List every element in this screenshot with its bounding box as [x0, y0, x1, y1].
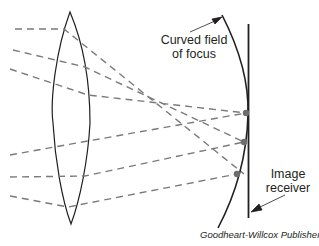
curved-field-label-line-2: of focus [146, 47, 242, 61]
publisher-credit: Goodheart-Willcox Publisher [200, 229, 319, 240]
convex-lens [52, 12, 90, 224]
arrowhead-icon [212, 17, 222, 24]
ray-5 [10, 142, 244, 177]
ray-3 [10, 69, 246, 113]
focal-point-1 [243, 110, 249, 116]
image-receiver-label-line-1: Image [258, 167, 318, 181]
curved-field-leader-line [190, 21, 215, 32]
ray-6 [10, 174, 237, 207]
curved-field-label-line-1: Curved field [146, 33, 242, 47]
focal-point-2 [241, 139, 247, 145]
image-receiver-label-line-2: receiver [258, 181, 318, 195]
focal-point-3 [234, 171, 240, 177]
ray-4 [10, 113, 246, 155]
image-receiver-label: Image receiver [258, 167, 318, 195]
curved-field-label: Curved field of focus [146, 33, 242, 61]
arrowhead-icon [251, 204, 262, 212]
ray-2 [13, 50, 244, 142]
receiver-leader-line [258, 195, 285, 208]
